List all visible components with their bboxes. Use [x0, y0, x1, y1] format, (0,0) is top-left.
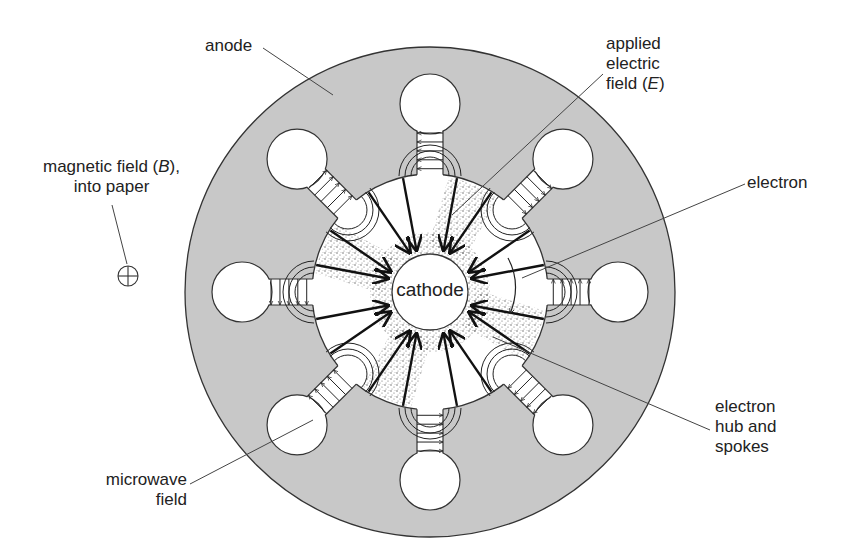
microwave-field-label: microwave field — [82, 470, 187, 510]
resonator-hole — [533, 129, 593, 189]
slot-hole-join — [590, 280, 594, 304]
applied-field-label: applied electric field (E) — [606, 34, 665, 94]
resonator-hole — [588, 262, 648, 322]
magnetron-diagram: anode applied electric field (E) magneti… — [0, 0, 844, 553]
slot-hole-join — [418, 452, 442, 456]
magnetic-field-label: magnetic field (B), into paper — [24, 157, 199, 197]
resonator-hole — [267, 395, 327, 455]
anode-label: anode — [205, 36, 252, 56]
hub-spokes-label: electron hub and spokes — [715, 397, 776, 457]
magnetic-field-into-page-icon — [118, 266, 138, 286]
slot-hole-join — [266, 280, 270, 304]
resonator-hole — [400, 74, 460, 134]
resonator-hole — [267, 129, 327, 189]
electron-label: electron — [747, 173, 807, 193]
cathode-label: cathode — [390, 279, 470, 301]
resonator-hole — [533, 395, 593, 455]
slot-hole-join — [418, 128, 442, 132]
resonator-hole — [400, 450, 460, 510]
magnetic-field-leader — [112, 205, 127, 264]
resonator-hole — [212, 262, 272, 322]
